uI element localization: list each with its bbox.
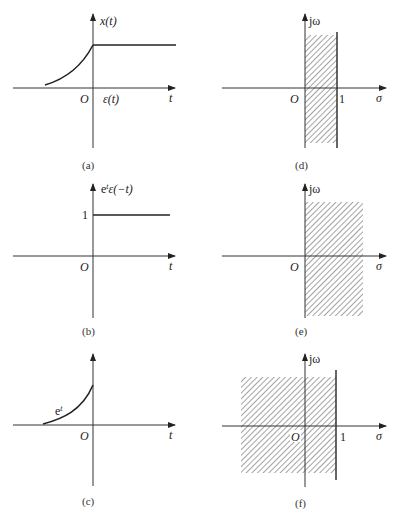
sigma-label: σ — [376, 429, 383, 443]
t-axis-label: t — [169, 259, 173, 273]
sigma-label: σ — [376, 91, 383, 105]
caption-d: (d) — [295, 159, 308, 172]
exponential-curve — [43, 385, 93, 424]
panel-b: etε(−t) 1 t O (b) — [13, 182, 175, 338]
caption-f: (f) — [295, 497, 306, 510]
origin-label: O — [290, 92, 299, 106]
panel-d: jω σ O 1 (d) — [222, 14, 386, 172]
jw-label: jω — [308, 352, 320, 366]
caption-b: (b) — [82, 325, 95, 338]
caption-a: (a) — [82, 159, 95, 172]
curve-label: et — [55, 404, 63, 418]
t-axis-label: t — [169, 91, 173, 105]
t-axis-label: t — [169, 428, 173, 442]
panel-f: jω σ O 1 (f) — [222, 352, 386, 510]
caption-e: (e) — [295, 325, 308, 338]
origin-label: O — [290, 260, 299, 274]
roc-strip — [305, 35, 337, 143]
boundary-label: 1 — [339, 92, 345, 106]
panel-c: et t O (c) — [13, 354, 175, 508]
figure-canvas: x(t) t O ε(t) (a) jω σ O 1 (d) etε(−t) 1… — [0, 0, 397, 517]
panel-e: jω σ O (e) — [222, 182, 386, 338]
sigma-label: σ — [376, 259, 383, 273]
boundary-label: 1 — [340, 430, 346, 444]
y-axis-label: etε(−t) — [101, 182, 133, 196]
caption-c: (c) — [82, 495, 95, 508]
origin-label: O — [80, 429, 89, 443]
roc-half-plane — [241, 377, 336, 473]
origin-label: O — [80, 260, 89, 274]
level-label: 1 — [82, 208, 88, 222]
origin-label: O — [291, 430, 300, 444]
panel-a: x(t) t O ε(t) (a) — [13, 14, 176, 172]
step-annotation: ε(t) — [103, 92, 119, 106]
exponential-curve — [45, 45, 93, 85]
jw-label: jω — [308, 14, 320, 28]
origin-label: O — [80, 92, 89, 106]
roc-half-plane — [305, 202, 363, 316]
jw-label: jω — [308, 182, 320, 196]
y-axis-label: x(t) — [99, 14, 117, 28]
